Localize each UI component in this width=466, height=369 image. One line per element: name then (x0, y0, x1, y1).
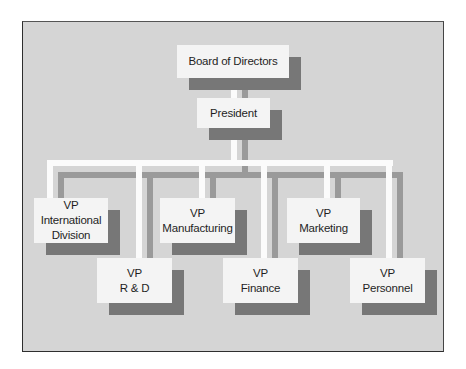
vp-personnel-line1: VP (380, 266, 395, 281)
board-label: Board of Directors (188, 54, 277, 69)
connector-drop-mfg (199, 160, 205, 199)
connector-shadow-horizontal (58, 172, 403, 178)
vp-international-division-box: VP International Division (34, 198, 108, 243)
vp-rd-line1: VP (127, 266, 142, 281)
vp-finance-line2: Finance (241, 281, 281, 296)
vp-marketing-box: VP Marketing (287, 198, 360, 243)
vp-finance-line1: VP (253, 266, 268, 281)
connector-horizontal (47, 160, 393, 166)
connector-shadow-drop-rd (147, 172, 153, 259)
connector-drop-rd (136, 160, 142, 259)
connector-shadow-drop-pers (397, 172, 403, 259)
connector-drop-intl (47, 160, 53, 199)
connector-drop-mktg (324, 160, 330, 199)
vp-personnel-box: VP Personnel (350, 258, 425, 303)
vp-rd-box: VP R & D (97, 258, 172, 303)
vp-manufacturing-box: VP Manufacturing (160, 198, 235, 243)
vp-international-line2: International (41, 213, 102, 228)
vp-manufacturing-line1: VP (190, 206, 205, 221)
board-of-directors-box: Board of Directors (177, 45, 289, 78)
connector-shadow-drop-intl (58, 172, 64, 199)
connector-drop-pers (386, 160, 392, 259)
vp-personnel-line2: Personnel (363, 281, 413, 296)
vp-marketing-line2: Marketing (299, 221, 348, 236)
vp-international-line3: Division (52, 228, 91, 243)
vp-international-line1: VP (64, 198, 79, 213)
connector-shadow-drop-mfg (210, 172, 216, 199)
vp-finance-box: VP Finance (223, 258, 298, 303)
vp-marketing-line1: VP (316, 206, 331, 221)
president-label: President (210, 106, 257, 121)
connector-shadow-drop-fin (272, 172, 278, 259)
connector-drop-fin (261, 160, 267, 259)
president-box: President (197, 98, 270, 128)
vp-manufacturing-line2: Manufacturing (162, 221, 232, 236)
connector-shadow-drop-mktg (335, 172, 341, 199)
vp-rd-line2: R & D (120, 281, 150, 296)
